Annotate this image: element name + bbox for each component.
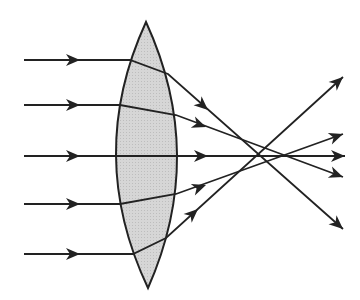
ray-5 (24, 73, 347, 260)
refracted-arrow-icon (191, 117, 208, 133)
end-arrow-icon (328, 128, 345, 144)
ray-line (24, 134, 343, 204)
ray-line (24, 105, 343, 177)
end-arrow-icon (328, 167, 345, 183)
lens-ray-diagram (0, 0, 360, 300)
ray-2 (24, 99, 345, 183)
ray-4 (24, 128, 345, 210)
